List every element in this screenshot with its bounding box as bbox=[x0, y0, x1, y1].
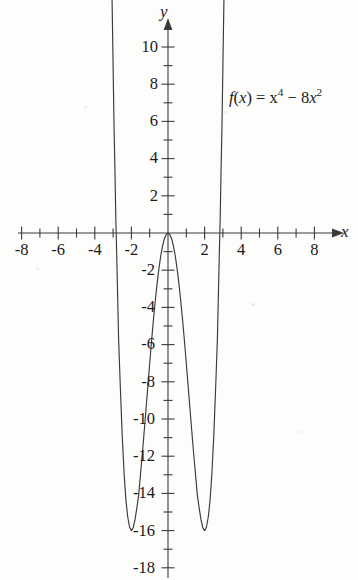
y-tick-label: 10 bbox=[106, 37, 158, 57]
y-tick-label: -8 bbox=[103, 372, 155, 392]
function-graph-figure: y x -8 -6 -4 -2 2 4 6 8 10 8 6 4 2 -2 -4… bbox=[0, 0, 358, 580]
y-tick-label: 2 bbox=[106, 186, 158, 206]
y-tick-label: -4 bbox=[103, 297, 155, 317]
term1-base: x bbox=[269, 88, 277, 107]
y-tick-label: -16 bbox=[103, 521, 155, 541]
y-tick-label: -2 bbox=[103, 260, 155, 280]
y-tick-label: 6 bbox=[106, 111, 158, 131]
x-axis-label: x bbox=[341, 222, 349, 242]
x-tick-label: 6 bbox=[258, 240, 298, 260]
term2-coefficient: 8 bbox=[301, 88, 309, 107]
fn-operator: − bbox=[283, 88, 301, 107]
y-tick-label: -10 bbox=[103, 409, 155, 429]
x-tick-label: 4 bbox=[221, 240, 261, 260]
x-tick-label: -8 bbox=[2, 240, 42, 260]
term2-exponent: 2 bbox=[316, 86, 322, 98]
x-tick-label: -4 bbox=[75, 240, 115, 260]
y-tick-label: -14 bbox=[103, 483, 155, 503]
y-tick-label: 4 bbox=[106, 148, 158, 168]
x-tick-label: 2 bbox=[185, 240, 225, 260]
x-tick-label: 8 bbox=[294, 240, 334, 260]
y-tick-label: 8 bbox=[106, 74, 158, 94]
function-equation-label: f(x) = x4 − 8x2 bbox=[229, 86, 322, 108]
x-tick-label: -6 bbox=[38, 240, 78, 260]
y-tick-label: -12 bbox=[103, 446, 155, 466]
y-tick-label: -18 bbox=[103, 558, 155, 578]
y-tick-label: -6 bbox=[103, 334, 155, 354]
x-tick-label: -2 bbox=[111, 240, 151, 260]
y-axis-label: y bbox=[160, 2, 168, 22]
fn-equals: = bbox=[252, 88, 270, 107]
